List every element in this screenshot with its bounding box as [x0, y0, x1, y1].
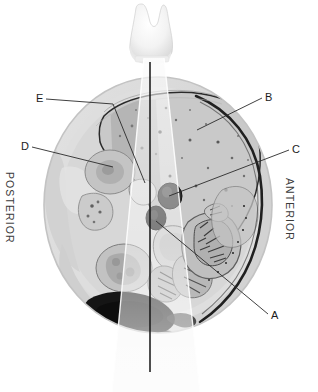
anatomical-cross-section-figure [0, 0, 318, 392]
ultrasound-transducer-icon [130, 4, 173, 65]
leader-label-a: A [271, 310, 279, 321]
leader-label-b: B [265, 92, 273, 103]
leader-label-d: D [21, 141, 29, 152]
orientation-label-anterior: ANTERIOR [284, 178, 296, 241]
figure-container: E D B C A POSTERIOR ANTERIOR [0, 0, 318, 392]
orientation-label-posterior: POSTERIOR [4, 172, 16, 244]
leader-label-c: C [292, 144, 300, 155]
rib-cross-section [78, 193, 113, 230]
leader-label-e: E [36, 93, 44, 104]
